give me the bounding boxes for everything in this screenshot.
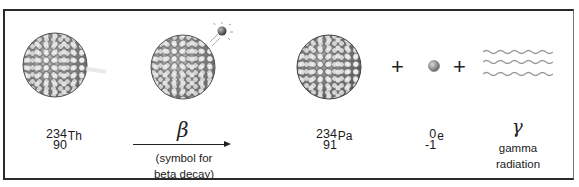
gamma-caption: gamma radiation xyxy=(488,141,548,172)
electron-label: 0 -1 e xyxy=(425,129,444,150)
atomic-number: 90 xyxy=(53,140,67,151)
gamma-symbol: γ xyxy=(512,118,523,136)
reaction-arrow xyxy=(133,144,229,145)
plus-sign: + xyxy=(453,56,466,78)
element-symbol: Th xyxy=(68,130,82,142)
beta-symbol: β xyxy=(177,120,189,140)
beta-caption: (symbol for beta decay) xyxy=(134,151,234,182)
atomic-number: -1 xyxy=(425,140,436,151)
protactinium-label: 234 91 Pa xyxy=(316,129,353,150)
thorium-label: 234 90 Th xyxy=(46,129,82,150)
plus-sign: + xyxy=(391,56,404,78)
atomic-number: 91 xyxy=(323,140,337,151)
gamma-wave-icon xyxy=(483,48,553,80)
protactinium-nucleus-icon xyxy=(296,33,364,101)
electron-icon xyxy=(427,59,441,73)
element-symbol: Pa xyxy=(338,130,353,142)
element-symbol: e xyxy=(437,130,444,142)
emitting-nucleus-icon xyxy=(150,20,240,102)
thorium-nucleus-icon xyxy=(22,29,108,103)
